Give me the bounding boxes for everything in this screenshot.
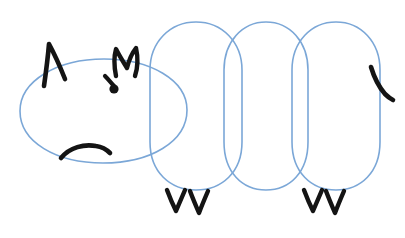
caterpillar-drawing	[0, 0, 405, 238]
sketch-canvas: Hand-drawn caterpillar sketch A cartoon …	[0, 0, 405, 238]
eye-dot-icon	[109, 84, 118, 93]
